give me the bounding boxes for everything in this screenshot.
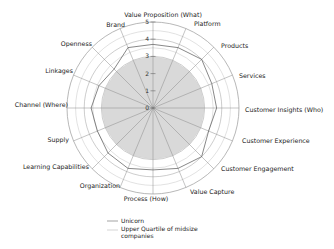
axis-label-services: Services [239, 72, 266, 79]
axis-label-openness: Openness [61, 40, 92, 48]
legend: Unicorn Upper Quartile of midsize compan… [107, 217, 198, 240]
tick-label: 1 [145, 87, 149, 94]
axis-label-customer-engagement: Customer Engagement [221, 165, 294, 173]
tick-label: 3 [145, 52, 149, 59]
axis-label-supply: Supply [48, 136, 70, 144]
axis-label-linkages: Linkages [45, 67, 73, 75]
axis-label-customer-experience: Customer Experience [242, 137, 310, 145]
axis-label-process-how: Process (How) [124, 195, 169, 202]
axis-label-learning-capabilities: Learning Capabilities [23, 163, 89, 171]
axis-label-value-capture: Value Capture [190, 188, 234, 196]
tick-label: 2 [145, 70, 149, 77]
tick-label: 4 [145, 35, 149, 42]
tick-label: 0 [145, 104, 149, 111]
axis-label-channel-where: Channel (Where) [15, 101, 68, 108]
radar-chart: 012345 Value Proposition (What)PlatformP… [0, 0, 334, 249]
axis-label-platform: Platform [194, 20, 221, 27]
axis-label-value-proposition-what: Value Proposition (What) [124, 11, 202, 19]
axis-label-customer-insights-who: Customer Insights (Who) [245, 106, 323, 114]
legend-upper-quartile-label-2: companies [121, 232, 154, 240]
legend-unicorn-label: Unicorn [121, 217, 144, 224]
axis-label-brand: Brand [106, 21, 125, 28]
axis-label-products: Products [221, 42, 248, 49]
tick-label: 5 [145, 18, 149, 25]
axis-label-organization: Organization [80, 182, 120, 190]
